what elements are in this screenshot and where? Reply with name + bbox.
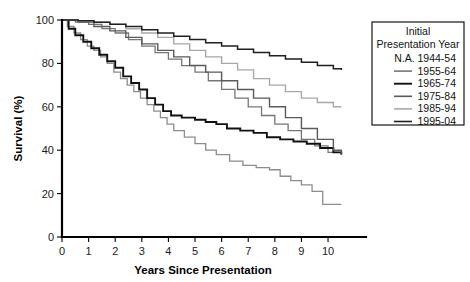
legend-title-line2: Presentation Year [377,38,460,50]
legend-label-1985-94: 1985-94 [417,102,456,114]
survival-curve-1985-94 [62,20,341,107]
x-tick-label: 8 [272,245,278,257]
y-tick-label: 100 [36,14,54,26]
x-tick-label: 3 [139,245,145,257]
y-tick-label: 40 [42,144,54,156]
x-axis-title: Years Since Presentation [134,264,271,276]
survival-chart-svg: 020406080100012345678910Years Since Pres… [0,0,470,282]
legend-label-1965-74: 1965-74 [417,77,456,89]
survival-chart-figure: 020406080100012345678910Years Since Pres… [0,0,470,282]
curves-group [62,20,341,204]
x-tick-label: 2 [112,245,118,257]
axes-group: 020406080100012345678910Years Since Pres… [12,14,366,276]
x-tick-label: 7 [245,245,251,257]
y-tick-label: 80 [42,57,54,69]
legend-label-1975-84: 1975-84 [417,90,456,102]
legend-title-line1: Initial [406,25,431,37]
x-tick-label: 6 [219,245,225,257]
x-tick-label: 5 [192,245,198,257]
legend-group: InitialPresentation YearN.A. 1944-541955… [372,22,464,127]
legend-label-1955-64: 1955-64 [417,65,456,77]
y-tick-label: 20 [42,188,54,200]
y-tick-label: 60 [42,101,54,113]
x-tick-label: 9 [298,245,304,257]
y-axis-title: Survival (%) [12,95,24,161]
x-tick-label: 1 [86,245,92,257]
legend-label-1995-04: 1995-04 [417,115,456,127]
legend-label-n-a-1944-54: N.A. 1944-54 [394,52,456,64]
survival-curve-1995-04 [62,20,341,70]
x-tick-label: 4 [165,245,171,257]
x-tick-label: 0 [59,245,65,257]
survival-curve-n-a-1944-54 [62,20,341,204]
x-tick-label: 10 [322,245,334,257]
y-tick-label: 0 [48,231,54,243]
